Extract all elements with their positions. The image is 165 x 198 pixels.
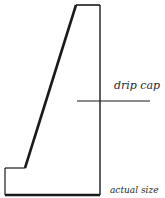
scale-label: actual size (110, 186, 159, 195)
profile-slanted-face (25, 5, 76, 168)
drip-cap-profile-drawing (0, 0, 165, 198)
drip-cap-label: drip cap (114, 80, 160, 91)
